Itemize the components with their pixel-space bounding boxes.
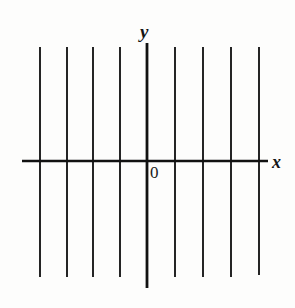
y-axis-label: y (140, 22, 148, 41)
x-axis-label: x (272, 153, 281, 171)
origin-label: 0 (150, 164, 159, 181)
figure-canvas: y x 0 (0, 0, 295, 308)
coordinate-plane-graphic (0, 0, 295, 308)
